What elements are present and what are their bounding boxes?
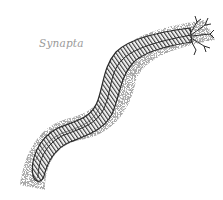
illustration-canvas: Synapta [0,0,223,200]
synapta-illustration [0,0,223,200]
species-label: Synapta [39,37,84,49]
